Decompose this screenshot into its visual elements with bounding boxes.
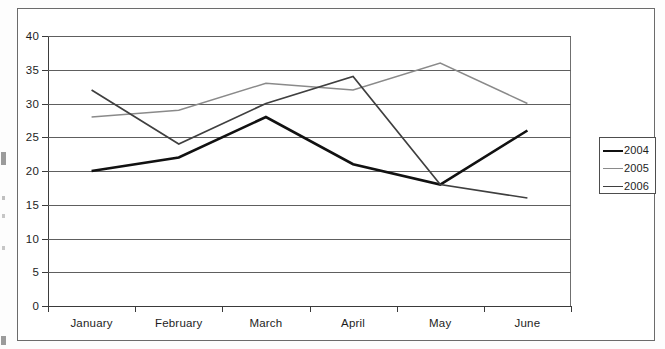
chart-screenshot: JanuaryFebruaryMarchAprilMayJune 0510152…: [0, 0, 665, 349]
legend-item-2005: 2005: [603, 161, 649, 174]
y-axis-tick-label: 40: [26, 30, 39, 42]
x-axis-tick: [48, 306, 49, 312]
y-axis-tick-label: 25: [26, 131, 39, 143]
x-axis-tick: [484, 306, 485, 312]
x-axis-tick: [571, 306, 572, 312]
x-axis-tick-label: May: [429, 317, 451, 329]
x-axis-tick-label: February: [155, 317, 203, 329]
scan-artifact: [2, 246, 5, 250]
x-axis-tick: [222, 306, 223, 312]
y-axis-tick: [42, 306, 48, 307]
series-line-2004: [92, 117, 528, 185]
legend-item-2004: 2004: [603, 143, 649, 156]
legend-label: 2006: [624, 180, 649, 192]
y-axis-tick-label: 30: [26, 98, 39, 110]
legend-item-2006: 2006: [603, 179, 649, 192]
y-axis-tick: [42, 104, 48, 105]
y-axis-tick-label: 35: [26, 64, 39, 76]
y-axis-tick: [42, 171, 48, 172]
chart-legend: 200420052006: [599, 137, 656, 194]
legend-label: 2005: [624, 162, 649, 174]
series-layer: [48, 36, 571, 306]
x-axis-tick-label: March: [249, 317, 282, 329]
scan-artifact: [1, 336, 6, 345]
y-axis-tick: [42, 205, 48, 206]
x-axis-tick: [397, 306, 398, 312]
x-axis-tick: [135, 306, 136, 312]
legend-swatch-2004: [603, 145, 623, 155]
y-axis-tick: [42, 137, 48, 138]
scan-artifact: [2, 214, 5, 218]
series-line-2006: [92, 77, 528, 199]
x-axis-tick-label: April: [341, 317, 365, 329]
y-axis-tick-label: 0: [32, 300, 39, 312]
x-axis-tick-label: January: [70, 317, 112, 329]
y-axis-tick: [42, 70, 48, 71]
scan-artifact: [1, 152, 6, 165]
y-axis-tick-label: 15: [26, 199, 39, 211]
legend-label: 2004: [624, 144, 649, 156]
y-axis-tick: [42, 36, 48, 37]
y-axis-tick-label: 10: [26, 233, 39, 245]
y-axis-tick-label: 5: [32, 266, 39, 278]
x-axis-tick-label: June: [515, 317, 541, 329]
x-axis-tick: [310, 306, 311, 312]
legend-swatch-2005: [603, 163, 623, 173]
plot-area: JanuaryFebruaryMarchAprilMayJune 0510152…: [48, 36, 571, 306]
scan-artifact: [2, 196, 5, 200]
y-axis-tick-label: 20: [26, 165, 39, 177]
y-axis-tick: [42, 239, 48, 240]
chart-frame: JanuaryFebruaryMarchAprilMayJune 0510152…: [17, 8, 655, 341]
legend-swatch-2006: [603, 181, 623, 191]
y-axis-tick: [42, 272, 48, 273]
